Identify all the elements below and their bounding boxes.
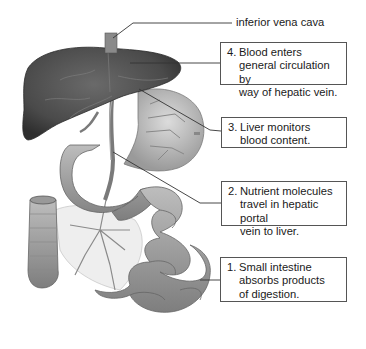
step-2-box: 2. Nutrient molecules travel in hepatic …: [221, 181, 347, 226]
step-4-text: Blood enters general circulation by way …: [227, 46, 342, 100]
step-2-text: Nutrient molecules travel in hepatic por…: [228, 185, 342, 239]
leader-ivc: [113, 23, 232, 38]
step-1-number: 1.: [227, 261, 236, 274]
stomach: [124, 89, 204, 171]
step-3-text: Liver monitors blood content.: [228, 121, 342, 148]
step-4-box: 4. Blood enters general circulation by w…: [220, 42, 347, 85]
step-3-number: 3.: [228, 121, 237, 134]
step-2-number: 2.: [228, 185, 237, 198]
step-4-number: 4.: [227, 46, 236, 59]
step-1-box: 1. Small intestine absorbs products of d…: [220, 257, 347, 302]
step-3-box: 3. Liver monitors blood content.: [221, 117, 347, 148]
step-1-text: Small intestine absorbs products of dige…: [227, 261, 342, 301]
ivc-label: inferior vena cava: [236, 16, 324, 29]
large-intestine: [28, 196, 58, 288]
